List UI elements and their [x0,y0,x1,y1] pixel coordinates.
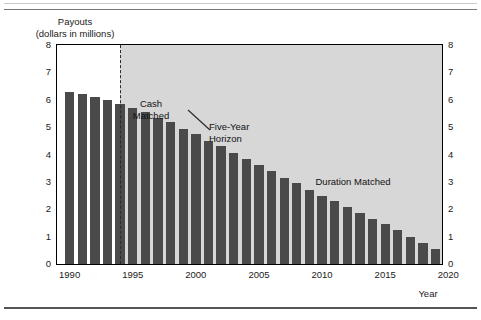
bar [141,112,150,264]
bar [267,171,276,264]
top-rule [4,9,477,10]
bar [216,146,225,264]
y-axis-right-label-8: 8 [448,40,472,50]
bar [317,196,326,264]
bar [305,190,314,264]
y-axis-left-label-4: 4 [27,150,51,160]
y-axis-right-label-3: 3 [448,177,472,187]
bar [128,108,137,264]
y-axis-left-label-7: 7 [27,67,51,77]
bar [65,92,74,264]
horizon-leader-line [187,109,211,131]
x-axis-label-2005: 2005 [239,270,279,280]
bar [393,230,402,264]
annotation-duration-matched: Duration Matched [305,176,401,188]
x-axis-label-2000: 2000 [176,270,216,280]
y-axis-right-label-1: 1 [448,232,472,242]
bar [431,249,440,264]
five-year-horizon-divider [120,45,121,264]
bar [153,118,162,264]
bar [368,219,377,264]
x-axis-label-2015: 2015 [365,270,405,280]
bar [204,141,213,264]
plot-area: Cash Matched Five-Year Horizon Duration … [56,44,443,265]
y-axis-left-label-0: 0 [27,259,51,269]
bar [355,213,364,264]
x-axis-label-1990: 1990 [50,270,90,280]
bar-series [57,45,442,264]
y-axis-left-label-3: 3 [27,177,51,187]
y-axis-right-label-5: 5 [448,122,472,132]
bar [418,243,427,264]
y-axis-left-label-6: 6 [27,95,51,105]
y-axis-right-label-4: 4 [448,150,472,160]
x-axis-label-2020: 2020 [428,270,468,280]
y-axis-title: Payouts (dollars in millions) [10,16,140,39]
y-axis-right-label-0: 0 [448,259,472,269]
bar [242,159,251,264]
bar [292,183,301,264]
bar [103,100,112,264]
annotation-cash-matched: Cash Matched [119,98,183,121]
bar [166,122,175,264]
bar [406,237,415,264]
annotation-five-year-horizon: Five-Year Horizon [209,121,279,144]
bar [381,224,390,264]
bottom-rule [4,307,477,309]
top-ghost-rule [4,3,477,4]
x-axis-title: Year [404,288,452,299]
bar [229,153,238,264]
bar [254,165,263,264]
bar [343,207,352,264]
x-axis-label-1995: 1995 [113,270,153,280]
y-axis-left-label-8: 8 [27,40,51,50]
y-axis-left-label-1: 1 [27,232,51,242]
bar [191,134,200,264]
y-axis-right-label-7: 7 [448,67,472,77]
x-axis-label-2010: 2010 [302,270,342,280]
bar [280,178,289,264]
bar [330,201,339,264]
y-axis-left-label-5: 5 [27,122,51,132]
bar [90,97,99,264]
chart-page: Payouts (dollars in millions) Year Cash … [0,0,481,320]
bar [179,129,188,265]
y-axis-right-label-2: 2 [448,204,472,214]
bar [78,94,87,264]
y-axis-left-label-2: 2 [27,204,51,214]
y-axis-right-label-6: 6 [448,95,472,105]
